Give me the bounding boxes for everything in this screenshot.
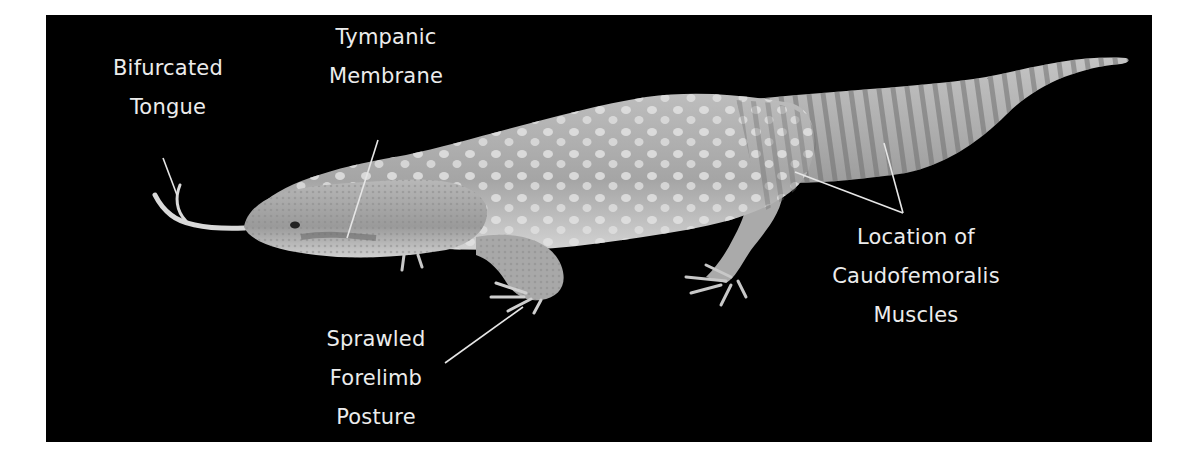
eye-shape xyxy=(290,222,300,229)
label-caudofemoralis-muscles: Location of Caudofemoralis Muscles xyxy=(816,218,1016,335)
label-sprawled-forelimb-posture: Sprawled Forelimb Posture xyxy=(306,320,446,437)
label-caudofemoralis-line2: Caudofemoralis xyxy=(816,257,1016,296)
diagram-panel: Bifurcated Tongue Tympanic Membrane Spra… xyxy=(46,15,1152,442)
tongue-callout-line xyxy=(163,158,177,195)
label-caudofemoralis-line1: Location of xyxy=(816,218,1016,257)
label-tympanic-membrane-line1: Tympanic xyxy=(316,18,456,57)
label-caudofemoralis-line3: Muscles xyxy=(816,296,1016,335)
label-sprawled-forelimb-line3: Posture xyxy=(306,398,446,437)
label-bifurcated-tongue-line1: Bifurcated xyxy=(98,49,238,88)
label-tympanic-membrane-line2: Membrane xyxy=(316,57,456,96)
label-sprawled-forelimb-line1: Sprawled xyxy=(306,320,446,359)
label-sprawled-forelimb-line2: Forelimb xyxy=(306,359,446,398)
label-bifurcated-tongue-line2: Tongue xyxy=(98,88,238,127)
tongue-shape xyxy=(155,185,244,228)
forelimb-callout-line xyxy=(445,307,523,363)
label-bifurcated-tongue: Bifurcated Tongue xyxy=(98,49,238,127)
label-tympanic-membrane: Tympanic Membrane xyxy=(316,18,456,96)
